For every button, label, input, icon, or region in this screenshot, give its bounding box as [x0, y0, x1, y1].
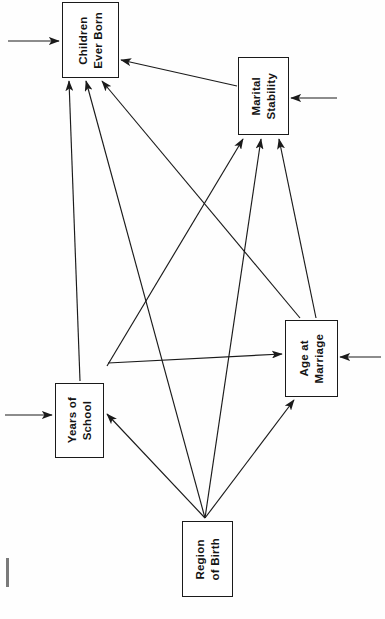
path-diagram-canvas: Children Ever Born Marital Stability Age…	[0, 0, 385, 619]
node-marital-stability[interactable]: Marital Stability	[238, 57, 289, 135]
edge-region-to-marital	[205, 139, 261, 518]
node-years-of-school[interactable]: Years of School	[55, 383, 104, 458]
node-label-marital-stability: Marital Stability	[249, 73, 278, 120]
edge-marital-to-children	[121, 60, 237, 86]
node-age-at-marriage[interactable]: Age at Marriage	[285, 320, 338, 397]
node-label-children-ever-born: Children Ever Born	[76, 12, 105, 69]
node-label-years-of-school: Years of School	[65, 397, 94, 443]
node-label-age-at-marriage: Age at Marriage	[297, 334, 326, 384]
edge-school-to-marital	[107, 139, 243, 366]
node-label-region-of-birth: Region of Birth	[193, 538, 222, 580]
scan-artifact-mark	[6, 558, 9, 587]
edge-age-to-marital	[279, 139, 316, 318]
edge-region-to-age	[205, 400, 294, 518]
node-children-ever-born[interactable]: Children Ever Born	[62, 2, 119, 78]
edge-school-to-age	[108, 354, 282, 363]
node-region-of-birth[interactable]: Region of Birth	[182, 521, 233, 597]
edge-school-to-children	[69, 81, 80, 381]
